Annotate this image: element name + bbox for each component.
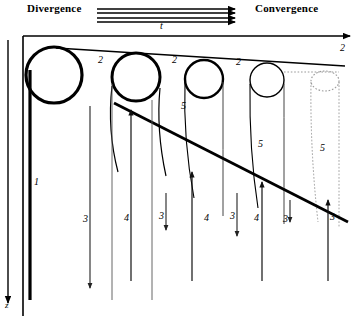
cell-ellipse-5 — [311, 71, 339, 91]
time-axis-label: t — [160, 20, 163, 31]
z-axis-label: z — [5, 300, 9, 310]
downward-flow-arrows — [90, 106, 290, 288]
label-3-e: 3 — [330, 211, 335, 222]
label-3-d: 3 — [283, 213, 288, 224]
label-2-a: 2 — [98, 54, 103, 65]
label-3-c: 3 — [230, 210, 235, 221]
diagram-svg — [0, 0, 361, 316]
label-2-c: 2 — [236, 56, 241, 67]
diagram-canvas: Divergence Convergence — [0, 0, 361, 316]
label-1: 1 — [34, 176, 39, 187]
label-5-a: 5 — [181, 100, 186, 111]
cell-circle-3 — [185, 60, 223, 98]
label-4-c: 4 — [254, 212, 259, 223]
label-4-a: 4 — [124, 212, 129, 223]
vertical-guides — [112, 84, 152, 300]
label-5-c: 5 — [320, 142, 325, 153]
label-3-a: 3 — [83, 213, 88, 224]
cell-circle-1 — [26, 47, 82, 103]
cell-circle-2 — [112, 53, 160, 101]
label-4-b: 4 — [204, 212, 209, 223]
label-5-b: 5 — [258, 138, 263, 149]
label-3-b: 3 — [159, 210, 164, 221]
cell-circle-4 — [250, 63, 284, 97]
label-2-b: 2 — [172, 54, 177, 65]
axis-frame — [23, 36, 350, 316]
descending-boundary — [56, 48, 348, 222]
time-arrow-group — [97, 9, 235, 22]
label-2-d: 2 — [340, 42, 345, 53]
